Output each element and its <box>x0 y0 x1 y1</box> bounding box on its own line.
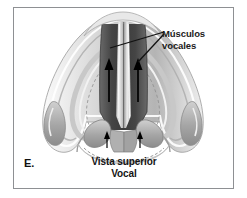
panel-letter: E. <box>24 157 34 169</box>
callout-line-2: vocales <box>162 40 196 51</box>
figure-panel-e: Músculos vocales E. Vista superior Vocal <box>0 0 247 198</box>
caption-line-2: Vocal <box>63 168 185 180</box>
illustration-stage: Músculos vocales E. Vista superior Vocal <box>0 0 247 198</box>
figure-caption: Vista superior Vocal <box>63 156 185 180</box>
caption-line-1: Vista superior <box>91 156 156 167</box>
vocal-folds <box>116 22 131 128</box>
callout-line-1: Músculos <box>162 28 205 39</box>
callout-musculos-vocales: Músculos vocales <box>162 28 238 51</box>
